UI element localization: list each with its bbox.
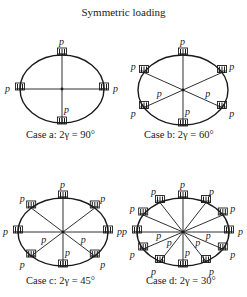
case-b-caption: Case b: 2γ = 60° — [144, 129, 214, 140]
load-label: p — [204, 88, 210, 99]
spoke-line — [143, 232, 183, 249]
load-label: p — [228, 61, 234, 72]
load-arrow-icon — [225, 226, 234, 233]
load-label: p — [184, 106, 190, 117]
load-label: p — [63, 104, 69, 115]
case-a-ring: pppp — [4, 36, 118, 124]
center-point — [62, 231, 65, 234]
load-arrow-icon — [202, 255, 211, 262]
load-label: p — [64, 247, 70, 258]
load-label: p — [129, 203, 135, 214]
spoke-line — [31, 208, 63, 232]
load-arrow-icon — [179, 260, 188, 267]
load-label: p — [229, 249, 235, 260]
load-arrow-icon — [59, 260, 68, 267]
load-arrow-icon — [156, 196, 165, 203]
spoke-line — [183, 90, 222, 108]
spoke-line — [160, 203, 183, 232]
load-arrow-icon — [90, 201, 99, 208]
load-label: p — [129, 249, 135, 260]
load-arrow-icon — [104, 226, 113, 233]
load-label: p — [130, 108, 136, 119]
load-label: p — [166, 237, 172, 248]
load-label: p — [228, 108, 234, 119]
load-label: p — [155, 230, 161, 241]
case-d-caption: Case d: 2γ = 30° — [146, 275, 216, 286]
load-label: p — [208, 186, 214, 197]
center-point — [182, 89, 185, 92]
center-point — [61, 88, 64, 91]
load-label: p — [58, 36, 64, 47]
load-label: p — [40, 234, 46, 245]
spoke-line — [63, 208, 95, 232]
load-label: p — [130, 61, 136, 72]
load-label: p — [194, 237, 200, 248]
spoke-line — [144, 73, 183, 91]
spoke-line — [183, 215, 223, 232]
load-label: p — [179, 36, 185, 47]
load-label: p — [4, 83, 10, 94]
case-c-caption: Case c: 2γ = 45° — [26, 275, 95, 286]
case-c-ring: pppppppppp — [2, 179, 122, 270]
load-arrow-icon — [27, 201, 36, 208]
load-arrow-icon — [14, 226, 23, 233]
load-label: p — [99, 193, 105, 204]
load-label: p — [179, 179, 185, 190]
load-label: p — [121, 226, 127, 237]
center-point — [182, 231, 185, 234]
load-label: p — [99, 259, 105, 270]
load-label: p — [112, 83, 118, 94]
load-label: p — [237, 226, 243, 237]
load-arrow-icon — [58, 48, 67, 55]
load-arrow-icon — [179, 191, 188, 198]
load-label: p — [2, 226, 8, 237]
load-label: p — [156, 88, 162, 99]
load-label: p — [150, 186, 156, 197]
case-b-ring: pppppppp — [130, 36, 235, 126]
spoke-line — [143, 215, 183, 232]
load-arrow-icon — [100, 83, 109, 90]
load-arrow-icon — [16, 83, 25, 90]
spoke-line — [144, 90, 183, 108]
load-arrow-icon — [156, 255, 165, 262]
load-label: p — [80, 234, 86, 245]
case-a-caption: Case a: 2γ = 90° — [26, 129, 95, 140]
load-label: p — [184, 247, 190, 258]
spoke-line — [183, 73, 222, 91]
load-label: p — [59, 179, 65, 190]
load-label: p — [19, 193, 25, 204]
symmetric-loading-diagram: pppp pppppppp pppppppppp ppppppppppppppp… — [0, 0, 247, 297]
load-label: p — [205, 230, 211, 241]
spoke-line — [183, 203, 206, 232]
load-arrow-icon — [179, 48, 188, 55]
load-arrow-icon — [133, 226, 142, 233]
load-arrow-icon — [179, 119, 188, 126]
load-arrow-icon — [59, 191, 68, 198]
load-label: p — [19, 259, 25, 270]
load-label: p — [229, 203, 235, 214]
load-arrow-icon — [58, 117, 67, 124]
case-d-ring: pppppppppppppppp — [121, 179, 243, 277]
